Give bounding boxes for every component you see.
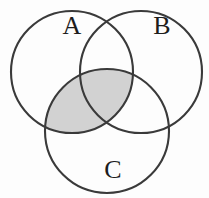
venn-diagram-figure: A B C	[0, 0, 209, 198]
venn-diagram-canvas: A B C	[0, 0, 209, 198]
set-label-a: A	[63, 11, 82, 40]
set-label-b: B	[153, 11, 170, 40]
set-label-c: C	[104, 155, 121, 184]
